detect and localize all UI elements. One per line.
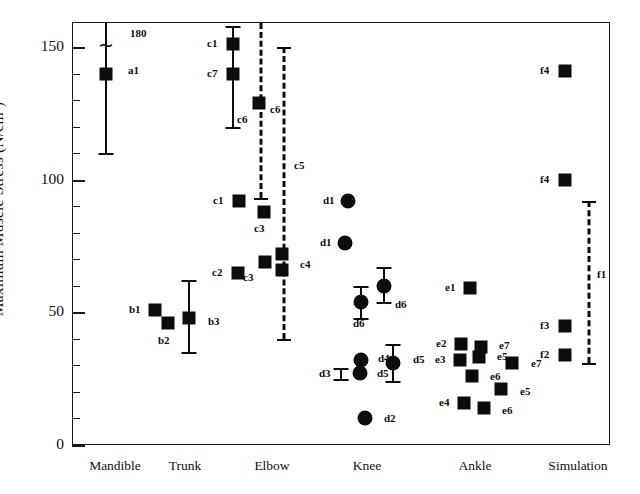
y-tick-minor-40 — [72, 339, 80, 340]
mandible-marker-a1[interactable] — [100, 67, 113, 80]
ankle-marker-e3[interactable] — [454, 354, 467, 367]
x-axis-label-simulation: Simulation — [548, 458, 607, 474]
elbow-point-label-c4: c4 — [300, 259, 310, 270]
knee-d6-errorbar-cap-low — [377, 302, 392, 304]
y-tick-minor-130 — [72, 100, 80, 101]
knee-d5-errorbar-cap-high — [386, 344, 401, 346]
ankle-marker-e6[interactable] — [466, 370, 479, 383]
simulation-marker-f3[interactable] — [559, 319, 572, 332]
trunk-point-label-b3: b3 — [208, 316, 220, 327]
knee-marker-d1[interactable] — [341, 193, 356, 208]
knee-marker-d5[interactable] — [353, 366, 368, 381]
ankle-marker-e7[interactable] — [506, 356, 519, 369]
mandible-point-label-a1: a1 — [128, 65, 139, 76]
elbow-point-label-c7: c7 — [207, 68, 217, 79]
trunk-b3-errorbar-cap-high — [182, 280, 197, 282]
knee-point-label-d3: d3 — [319, 368, 331, 379]
elbow-range-label-c5: c5 — [294, 160, 304, 171]
elbow-marker-c7[interactable] — [227, 67, 240, 80]
knee-marker-d2[interactable] — [358, 411, 373, 426]
y-tick-label-0: 0 — [8, 436, 64, 452]
y-tick-minor-120 — [72, 127, 80, 128]
elbow-marker-c3[interactable] — [258, 205, 271, 218]
trunk-marker-b1[interactable] — [149, 303, 162, 316]
y-tick-minor-110 — [72, 153, 80, 154]
elbow-c6-range-cap-low — [254, 198, 268, 200]
ankle-marker-e4[interactable] — [458, 396, 471, 409]
elbow-c5-range-cap-high — [277, 47, 291, 49]
plot-area — [72, 22, 610, 445]
x-axis-label-mandible: Mandible — [89, 458, 141, 474]
x-axis-label-trunk: Trunk — [169, 458, 202, 474]
y-tick-minor-140 — [72, 74, 80, 75]
y-axis-title-tail: ) — [0, 102, 6, 107]
figure-scatter-chart: Maximum Muscle Stress (N/cm2) 050100150 … — [0, 0, 640, 494]
knee-marker-d5[interactable] — [386, 355, 401, 370]
y-tick-major-50 — [72, 312, 85, 314]
ankle-marker-e6[interactable] — [478, 401, 491, 414]
elbow-marker-c2[interactable] — [232, 266, 245, 279]
elbow-marker-c3[interactable] — [259, 255, 272, 268]
elbow-point-label-c1: c1 — [207, 38, 217, 49]
y-tick-major-150 — [72, 47, 85, 49]
elbow-c7-errorbar-cap-high — [226, 26, 241, 28]
y-tick-minor-10 — [72, 418, 80, 419]
knee-marker-d6[interactable] — [354, 294, 369, 309]
y-tick-minor-60 — [72, 286, 80, 287]
axis-break-tilde: ~ — [98, 36, 114, 55]
y-tick-minor-80 — [72, 233, 80, 234]
elbow-marker-c1[interactable] — [233, 194, 246, 207]
simulation-marker-f4[interactable] — [559, 173, 572, 186]
mandible-a1-errorbar-cap-low — [99, 153, 114, 155]
knee-point-label-d2: d2 — [384, 413, 396, 424]
ankle-marker-e1[interactable] — [464, 282, 477, 295]
x-axis-label-ankle: Ankle — [459, 458, 492, 474]
simulation-point-label-f4: f4 — [540, 65, 549, 76]
simulation-point-label-f2: f2 — [540, 349, 549, 360]
ankle-marker-e5[interactable] — [495, 383, 508, 396]
y-axis-title-text: Maximum Muscle Stress (N/cm — [0, 112, 6, 316]
trunk-point-label-b1: b1 — [129, 304, 141, 315]
y-tick-minor-20 — [72, 392, 80, 393]
ankle-point-label-e7: e7 — [499, 340, 509, 351]
upper-limit-180: 180 — [130, 28, 147, 39]
ankle-point-label-e6: e6 — [490, 371, 500, 382]
trunk-marker-b3[interactable] — [183, 311, 196, 324]
knee-d3-errorbar-cap-high — [334, 368, 349, 370]
simulation-f1-range-cap-low — [582, 363, 596, 365]
simulation-point-label-f4: f4 — [540, 174, 549, 185]
y-tick-label-100: 100 — [8, 171, 64, 187]
simulation-marker-f2[interactable] — [559, 348, 572, 361]
knee-point-label-d6: d6 — [395, 299, 407, 310]
ankle-point-label-e5: e5 — [520, 386, 530, 397]
knee-d3-errorbar-cap-low — [334, 379, 349, 381]
knee-d6-errorbar-cap-high — [377, 267, 392, 269]
y-tick-minor-30 — [72, 365, 80, 366]
knee-point-label-d6: d6 — [353, 318, 365, 329]
elbow-c7-errorbar-cap-low — [226, 127, 241, 129]
elbow-point-label-c3: c3 — [254, 223, 264, 234]
simulation-range-label-f1: f1 — [597, 269, 606, 280]
simulation-marker-f4[interactable] — [559, 64, 572, 77]
y-tick-label-50: 50 — [8, 303, 64, 319]
ankle-marker-e2[interactable] — [455, 338, 468, 351]
elbow-c6-range-bar — [260, 23, 263, 198]
ankle-point-label-e4: e4 — [439, 397, 449, 408]
ankle-marker-e5[interactable] — [473, 351, 486, 364]
y-tick-label-150: 150 — [8, 38, 64, 54]
y-axis-title: Maximum Muscle Stress (N/cm2) — [0, 0, 7, 439]
elbow-c5-range-cap-low — [277, 339, 291, 341]
elbow-point-label-c1: c1 — [213, 195, 223, 206]
y-tick-minor-70 — [72, 259, 80, 260]
knee-marker-d6[interactable] — [377, 278, 392, 293]
y-tick-minor-90 — [72, 206, 80, 207]
ankle-point-label-e2: e2 — [436, 338, 446, 349]
simulation-f1-range-bar — [588, 201, 591, 363]
knee-marker-d1[interactable] — [338, 236, 353, 251]
knee-point-label-d1: d1 — [323, 195, 335, 206]
y-tick-major-100 — [72, 180, 85, 182]
ankle-point-label-e3: e3 — [435, 354, 445, 365]
knee-point-label-d5: d5 — [413, 354, 425, 365]
trunk-marker-b2[interactable] — [162, 316, 175, 329]
elbow-point-label-c2: c2 — [212, 267, 222, 278]
